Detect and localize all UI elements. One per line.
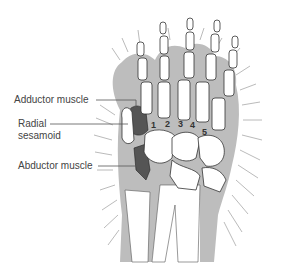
digit-number-2: 2 — [165, 119, 170, 129]
digit-number-5: 5 — [202, 127, 207, 137]
radial-sesamoid-label-line2: sesamoid — [18, 130, 61, 142]
paw-diagram: 1 2 3 4 5 Adductor muscle Radial sesamoi… — [0, 0, 281, 280]
forearm — [152, 185, 200, 262]
radial-sesamoid-bone — [122, 108, 134, 144]
abductor-muscle-label: Abductor muscle — [18, 160, 92, 172]
digit-number-1: 1 — [151, 120, 156, 130]
adductor-muscle-label: Adductor muscle — [14, 94, 88, 106]
digit-number-4: 4 — [190, 120, 195, 130]
digit-number-3: 3 — [178, 119, 183, 129]
radial-sesamoid-label-line1: Radial — [18, 118, 46, 130]
